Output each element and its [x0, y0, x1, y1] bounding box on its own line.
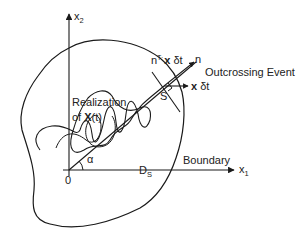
realization-label-line1: Realization: [72, 96, 126, 108]
safe-domain-boundary: [21, 40, 184, 227]
velocity-label: x δt: [191, 80, 209, 92]
x1-axis-label: x1: [239, 163, 249, 178]
x2-axis-label: x2: [74, 10, 84, 25]
safe-domain-label: DS: [139, 164, 152, 179]
boundary-label: Boundary: [183, 154, 231, 166]
outcrossing-diagram: x2 x1 0 Realization of X(t) Outcrossing …: [0, 0, 303, 236]
angle-alpha-arc: [79, 161, 83, 170]
origin-label: 0: [65, 174, 71, 186]
angle-alpha-label: α: [87, 153, 94, 165]
point-s-label: S: [160, 90, 167, 102]
realization-label-line2: of X(t): [72, 111, 102, 123]
outcrossing-event-label: Outcrossing Event: [205, 66, 295, 78]
normal-component-label: nT·x δt: [151, 54, 183, 66]
normal-label: n: [195, 53, 201, 65]
